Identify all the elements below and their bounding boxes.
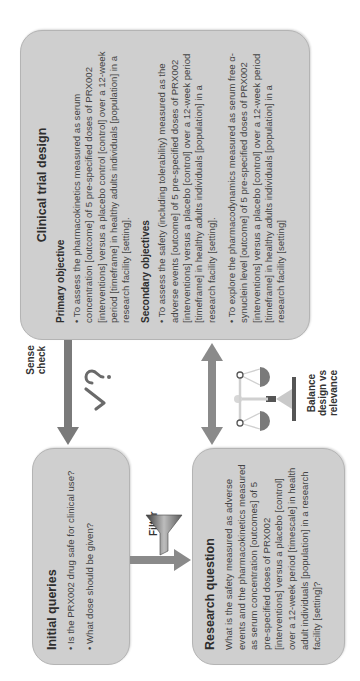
secondary-objective-item: • To explore the pharmacodynamics measur… bbox=[226, 47, 287, 323]
secondary-objective-item: • To assess the safety (including tolera… bbox=[156, 47, 217, 323]
initial-queries-box: Initial queries • Is the PRX002 drug saf… bbox=[32, 448, 130, 665]
balance-label: Balance design vs relevance bbox=[306, 358, 339, 428]
research-question-text: What is the safety measured as adverse e… bbox=[223, 463, 324, 650]
diagram-canvas: Initial queries • Is the PRX002 drug saf… bbox=[0, 0, 360, 681]
secondary-objectives-heading: Secondary objectives bbox=[140, 47, 151, 323]
initial-queries-title: Initial queries bbox=[45, 463, 59, 650]
initial-query-item: • What dose should be given? bbox=[84, 463, 96, 650]
sense-check-arrow bbox=[57, 340, 79, 445]
research-question-title: Research question bbox=[203, 463, 217, 650]
check-question-icon bbox=[86, 371, 111, 409]
filter-label: Filter bbox=[148, 496, 159, 536]
balance-double-arrow bbox=[201, 343, 223, 445]
primary-objective-heading: Primary objective bbox=[55, 47, 66, 323]
scales-icon bbox=[234, 367, 296, 431]
filter-arrow bbox=[130, 549, 191, 571]
sense-check-label: Sense check bbox=[25, 335, 47, 385]
clinical-trial-design-title: Clinical trial design bbox=[35, 47, 49, 323]
clinical-trial-design-box: Clinical trial design Primary objective … bbox=[20, 30, 310, 340]
primary-objective-item: • To assess the pharmacokinetics measure… bbox=[71, 47, 132, 323]
initial-query-item: • Is the PRX002 drug safe for clinical u… bbox=[65, 463, 77, 650]
research-question-box: Research question What is the safety mea… bbox=[192, 448, 345, 665]
